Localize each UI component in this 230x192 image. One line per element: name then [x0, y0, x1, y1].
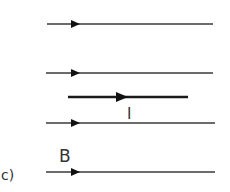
field-label: B	[59, 146, 71, 166]
arrow-right-icon	[71, 20, 80, 28]
magnetic-field-diagram: I B c)	[0, 0, 230, 192]
field-line	[47, 20, 213, 28]
arrow-right-icon	[71, 168, 80, 176]
current-wire	[68, 92, 188, 102]
field-line	[46, 168, 215, 176]
arrow-right-icon	[116, 92, 128, 102]
field-line	[46, 69, 213, 77]
arrow-right-icon	[71, 69, 80, 77]
arrow-right-icon	[71, 119, 80, 127]
current-label: I	[127, 105, 131, 123]
part-label: c)	[1, 167, 14, 183]
